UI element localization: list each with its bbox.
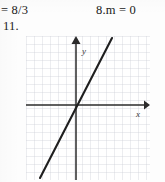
scanned-worksheet-page: = 8/3 8.m = 0 11. y x <box>0 0 165 182</box>
coordinate-plane-graph: y x <box>26 36 150 180</box>
grid-lines <box>26 36 150 180</box>
answer-fragment-left: = 8/3 <box>1 4 28 17</box>
x-axis-label: x <box>135 109 140 119</box>
answer-item-8: 8.m = 0 <box>96 4 136 17</box>
y-axis-label: y <box>81 46 86 56</box>
graph-svg: y x <box>26 36 150 180</box>
problem-number-label: 11. <box>3 20 19 33</box>
